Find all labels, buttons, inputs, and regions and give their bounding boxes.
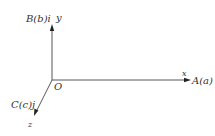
y-axis bbox=[50, 24, 54, 80]
y-axis-label: y bbox=[55, 12, 62, 23]
y-point-label: B(b)i bbox=[25, 13, 51, 24]
z-axis bbox=[34, 80, 52, 116]
x-point-label: A(a) bbox=[191, 75, 213, 86]
z-point-label: C(c)j bbox=[11, 99, 35, 110]
z-axis-label: z bbox=[27, 120, 33, 129]
x-axis-label: x bbox=[182, 69, 187, 78]
coordinate-axes-diagram: O B(b)i y x A(a) C(c)j z bbox=[0, 0, 215, 136]
x-axis-arrow-icon bbox=[184, 78, 191, 82]
origin-label: O bbox=[54, 81, 62, 92]
x-axis bbox=[52, 78, 191, 82]
y-axis-arrow-icon bbox=[50, 24, 54, 31]
